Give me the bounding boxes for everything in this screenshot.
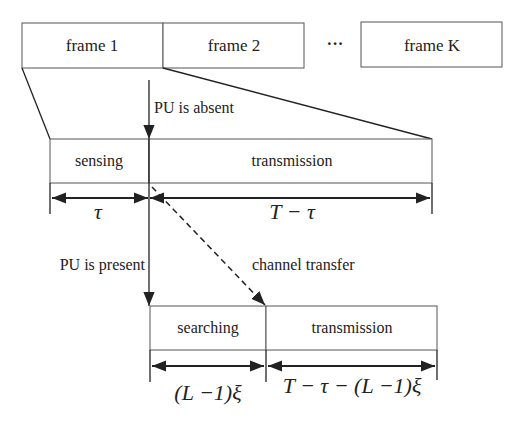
- expansion-line-left: [22, 68, 50, 139]
- pu-present-label: PU is present: [60, 256, 146, 274]
- ellipsis: ···: [326, 34, 343, 53]
- t-minus-tau-label: T − τ: [269, 199, 316, 224]
- transmission-label: transmission: [252, 152, 333, 169]
- frame-row: frame 1 frame 2 ··· frame K: [22, 22, 502, 68]
- searching-duration-label: (L −1)ξ: [174, 380, 242, 405]
- frame-1-label: frame 1: [66, 36, 118, 55]
- frame-structure-diagram: frame 1 frame 2 ··· frame K PU is absent…: [0, 0, 529, 430]
- remaining-transmission-label: T − τ − (L −1)ξ: [283, 373, 422, 398]
- frame-2-label: frame 2: [208, 36, 260, 55]
- transmission-label-2: transmission: [312, 319, 393, 336]
- frame-k-label: frame K: [404, 36, 461, 55]
- searching-row: searching transmission: [150, 306, 437, 350]
- channel-transfer-arrow: [152, 187, 265, 305]
- searching-label: searching: [177, 319, 238, 337]
- pu-absent-label: PU is absent: [154, 99, 235, 116]
- tau-label: τ: [94, 199, 103, 224]
- sensing-label: sensing: [75, 152, 123, 170]
- channel-transfer-label: channel transfer: [252, 256, 355, 273]
- sensing-row: sensing transmission: [50, 139, 432, 183]
